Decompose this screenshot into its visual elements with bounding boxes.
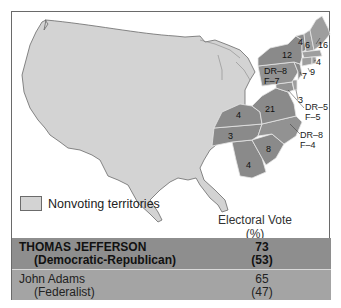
- results-row-jefferson: THOMAS JEFFERSON (Democratic-Republican)…: [12, 238, 331, 269]
- label-vermont: 4: [298, 37, 303, 47]
- legend-label: Nonvoting territories: [48, 197, 160, 211]
- label-north-carolina-1: DR–8: [300, 130, 323, 140]
- label-maryland-2: F–5: [305, 112, 321, 122]
- label-new-hampshire: 6: [305, 40, 310, 50]
- legend-swatch-nonvoting: [20, 196, 42, 211]
- label-kentucky: 4: [236, 110, 241, 120]
- label-delaware: 3: [298, 95, 303, 105]
- label-connecticut: 9: [310, 67, 315, 77]
- state-new-york: [258, 36, 302, 66]
- legend: Nonvoting territories: [20, 196, 160, 211]
- label-south-carolina: 8: [266, 144, 271, 154]
- candidate-party: (Democratic-Republican): [34, 254, 176, 267]
- label-new-jersey: 7: [302, 71, 307, 81]
- label-virginia: 21: [265, 104, 275, 114]
- label-pennsylvania-1: DR–8: [264, 66, 287, 76]
- label-maryland-1: DR–5: [305, 102, 328, 112]
- label-north-carolina-2: F–4: [300, 140, 316, 150]
- label-massachusetts: 16: [318, 40, 328, 50]
- electoral-vote-header-title: Electoral Vote: [210, 213, 300, 227]
- label-new-york: 12: [282, 50, 292, 60]
- electoral-vote-header: Electoral Vote (%): [210, 213, 300, 241]
- label-rhode-island: 4: [316, 57, 321, 67]
- electoral-percent: (53): [240, 254, 284, 267]
- label-tennessee: 3: [228, 131, 233, 141]
- electoral-percent: (47): [240, 286, 284, 299]
- label-georgia: 4: [246, 160, 251, 170]
- state-connecticut: [302, 57, 312, 66]
- results-row-adams: John Adams (Federalist) 65 (47): [12, 269, 331, 300]
- label-pennsylvania-2: F–7: [264, 76, 280, 86]
- candidate-party: (Federalist): [34, 286, 95, 299]
